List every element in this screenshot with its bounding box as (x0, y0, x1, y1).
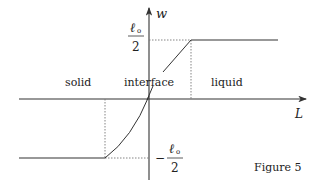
region-label-solid: solid (65, 76, 91, 89)
svg-text:o: o (137, 27, 141, 35)
svg-text:2: 2 (132, 40, 140, 54)
svg-text:o: o (176, 148, 180, 156)
region-label-liquid: liquid (211, 76, 243, 89)
upper-ramp (163, 40, 191, 72)
svg-text:−: − (155, 151, 165, 165)
figure-diagram: w L ℓ o 2 − ℓ o 2 solid interface liquid… (0, 0, 324, 189)
lower-curve (105, 96, 149, 158)
upper-tick-label: ℓ o 2 (128, 20, 144, 54)
x-axis-label: L (294, 107, 303, 121)
y-axis-label: w (156, 6, 167, 21)
figure-caption: Figure 5 (254, 161, 302, 174)
svg-text:ℓ: ℓ (169, 141, 175, 156)
svg-text:ℓ: ℓ (130, 20, 136, 35)
svg-text:2: 2 (171, 161, 179, 175)
region-label-interface: interface (124, 76, 174, 89)
lower-tick-label: − ℓ o 2 (155, 141, 183, 175)
